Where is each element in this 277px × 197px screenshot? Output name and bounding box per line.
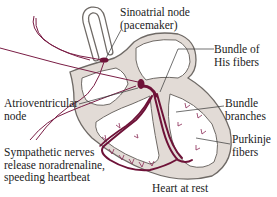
- vena-cava: [86, 10, 110, 58]
- label-sympathetic-nerves: Sympathetic nerves release noradrenaline…: [4, 146, 105, 184]
- label-bundle-branches: Bundle branches: [225, 97, 266, 122]
- label-bundle-of-his: Bundle of His fibers: [214, 43, 260, 68]
- label-purkinje-fibers: Purkinje fibers: [232, 133, 271, 158]
- label-sinoatrial-node: Sinoatrial node (pacemaker): [120, 6, 190, 31]
- heart-conduction-diagram: Sinoatrial node (pacemaker) Bundle of Hi…: [0, 0, 277, 197]
- figure-caption: Heart at rest: [152, 182, 208, 195]
- label-atrioventricular-node: Atrioventricular node: [4, 97, 78, 122]
